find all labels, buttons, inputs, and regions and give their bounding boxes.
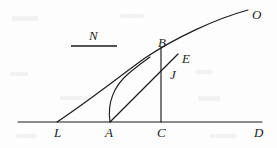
geometry-canvas: [0, 0, 277, 148]
segment-a-e: [110, 54, 178, 122]
point-label-l: L: [54, 126, 61, 139]
point-label-d: D: [254, 126, 263, 139]
curve-l-b-o: [57, 10, 248, 122]
point-label-j: J: [170, 68, 176, 81]
segment-label-n: N: [89, 29, 98, 42]
point-label-a: A: [105, 126, 113, 139]
curve-a-to-main: [109, 57, 150, 122]
point-label-b: B: [158, 36, 166, 49]
point-label-c: C: [157, 126, 166, 139]
point-label-e: E: [182, 52, 190, 65]
geometry-figure: O B E J N L A C D: [0, 0, 277, 148]
point-label-o: O: [252, 8, 261, 21]
